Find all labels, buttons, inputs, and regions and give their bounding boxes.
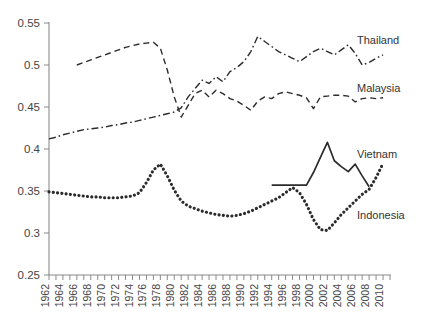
x-tick-label: 2010 bbox=[373, 284, 385, 308]
series-label-indonesia: Indonesia bbox=[357, 209, 406, 221]
y-tick-label: 0.25 bbox=[18, 269, 40, 281]
y-tick-label: 0.45 bbox=[18, 101, 40, 113]
x-tick-label: 1978 bbox=[150, 284, 162, 308]
x-tick-label: 1964 bbox=[53, 284, 65, 308]
series-line-vietnam bbox=[272, 142, 369, 187]
x-tick-label: 1970 bbox=[95, 284, 107, 308]
x-tick-label: 1966 bbox=[67, 284, 79, 308]
y-tick-label: 0.4 bbox=[24, 143, 41, 155]
x-tick-label: 1994 bbox=[262, 284, 274, 308]
x-tick-label: 1974 bbox=[123, 284, 135, 308]
x-tick-label: 1976 bbox=[136, 284, 148, 308]
chart-container: 0.250.30.350.40.450.50.55196219641966196… bbox=[0, 0, 427, 324]
series-label-vietnam: Vietnam bbox=[357, 148, 397, 160]
x-tick-label: 2004 bbox=[331, 284, 343, 308]
x-tick-label: 1968 bbox=[81, 284, 93, 308]
y-tick-label: 0.35 bbox=[18, 185, 40, 197]
y-tick-label: 0.55 bbox=[18, 17, 40, 29]
x-tick-label: 1972 bbox=[109, 284, 121, 308]
x-tick-label: 2002 bbox=[317, 284, 329, 308]
x-tick-label: 1992 bbox=[248, 284, 260, 308]
series-line-indonesia bbox=[49, 163, 383, 230]
x-tick-label: 2006 bbox=[345, 284, 357, 308]
x-tick-label: 1982 bbox=[178, 284, 190, 308]
x-tick-label: 1990 bbox=[234, 284, 246, 308]
y-tick-label: 0.3 bbox=[24, 227, 40, 239]
x-tick-label: 1988 bbox=[220, 284, 232, 308]
series-line-thailand bbox=[49, 36, 383, 138]
x-tick-label: 1962 bbox=[39, 284, 51, 308]
series-line-malaysia bbox=[77, 42, 383, 117]
x-tick-label: 1984 bbox=[192, 284, 204, 308]
x-tick-label: 1986 bbox=[206, 284, 218, 308]
series-label-thailand: Thailand bbox=[357, 34, 399, 46]
line-chart: 0.250.30.350.40.450.50.55196219641966196… bbox=[0, 0, 427, 324]
x-tick-label: 2000 bbox=[303, 284, 315, 308]
y-tick-label: 0.5 bbox=[24, 59, 40, 71]
x-tick-label: 1998 bbox=[290, 284, 302, 308]
series-label-malaysia: Malaysia bbox=[357, 82, 401, 94]
x-tick-label: 2008 bbox=[359, 284, 371, 308]
x-tick-label: 1996 bbox=[276, 284, 288, 308]
x-tick-label: 1980 bbox=[164, 284, 176, 308]
